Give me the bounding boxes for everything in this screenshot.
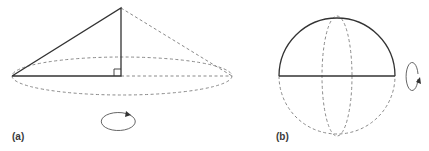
- rotation-arrow-vertical-icon: [406, 63, 418, 91]
- panel-b-label: (b): [276, 131, 289, 142]
- dashed-lower-semicircle: [279, 76, 395, 134]
- solid-upper-semicircle: [279, 18, 395, 76]
- panel-a-cone: [12, 8, 232, 131]
- rotation-arrowhead-vertical-icon: [416, 77, 421, 84]
- right-triangle: [12, 8, 121, 76]
- diagram-canvas: [0, 0, 429, 151]
- right-angle-marker: [114, 69, 121, 76]
- dashed-cone-edge: [121, 8, 232, 76]
- panel-a-label: (a): [12, 131, 24, 142]
- panel-b-sphere: [279, 16, 421, 136]
- rotation-arrowhead-icon: [125, 111, 131, 117]
